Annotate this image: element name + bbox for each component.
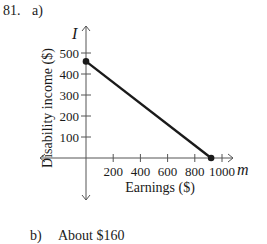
part-b-label: b) [30, 228, 42, 244]
x-tick-label: 1000 [209, 164, 235, 179]
x-tick-label: 800 [185, 164, 205, 179]
x-tick-label: 200 [103, 164, 123, 179]
y-tick-label: 100 [60, 130, 80, 145]
y-axis-variable: I [71, 25, 78, 42]
x-tick-label: 400 [131, 164, 151, 179]
x-tick-label: 600 [158, 164, 178, 179]
x-axis-variable: m [237, 161, 249, 178]
y-tick-label: 200 [60, 109, 80, 124]
part-b-answer: About $160 [58, 228, 125, 244]
y-tick-label: 300 [60, 88, 80, 103]
y-tick-label: 400 [60, 67, 80, 82]
series-point [208, 155, 215, 162]
series-line [86, 61, 211, 158]
y-axis-label: Disability income ($) [40, 48, 56, 168]
x-axis-label: Earnings ($) [125, 180, 195, 196]
series-point [83, 58, 90, 65]
series [83, 58, 215, 161]
y-tick-label: 500 [60, 46, 80, 61]
chart: 2004006008001000100200300400500 Disabili… [0, 0, 267, 244]
